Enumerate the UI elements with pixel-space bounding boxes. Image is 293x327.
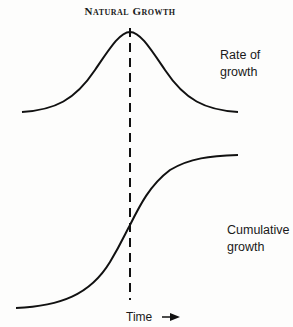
time-axis-label: Time xyxy=(126,309,152,326)
rate-of-growth-label: Rate of growth xyxy=(220,47,260,81)
cumulative-growth-label: Cumulative growth xyxy=(227,222,290,256)
time-arrow-icon xyxy=(170,313,180,321)
cumulative-growth-curve xyxy=(16,155,238,308)
